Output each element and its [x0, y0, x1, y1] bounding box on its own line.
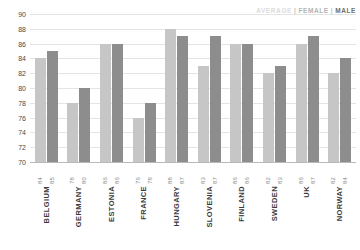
bar-group	[128, 14, 161, 162]
y-axis-tick-label: 72	[0, 144, 26, 151]
category-label: NORWAY	[336, 186, 344, 221]
category-label-cell: SWEDEN	[258, 186, 291, 248]
bar-group	[63, 14, 96, 162]
value-label-group: 8686	[95, 164, 128, 184]
bar-male	[112, 44, 123, 162]
value-label: 86	[242, 164, 253, 184]
category-label-cell: ESTONIA	[95, 186, 128, 248]
y-axis-tick-label: 90	[0, 11, 26, 18]
value-label: 83	[198, 164, 209, 184]
bar-female	[296, 44, 307, 162]
category-label-cell: BELGIUM	[30, 186, 63, 248]
category-label-cell: FINLAND	[226, 186, 259, 248]
gridline	[30, 162, 356, 163]
bar-group	[323, 14, 356, 162]
bar-male	[210, 36, 221, 162]
value-label-group: 8485	[30, 164, 63, 184]
bar-female	[328, 73, 339, 162]
category-label: BELGIUM	[43, 186, 51, 223]
bar-male	[308, 36, 319, 162]
value-label-group: 8387	[193, 164, 226, 184]
value-label: 85	[47, 164, 58, 184]
value-label-group: 7880	[63, 164, 96, 184]
bar-group	[95, 14, 128, 162]
value-label-group: 8284	[323, 164, 356, 184]
bar-male	[177, 36, 188, 162]
bar-female	[100, 44, 111, 162]
value-label: 83	[275, 164, 286, 184]
category-label: UK	[303, 186, 311, 198]
category-label: GERMANY	[75, 186, 83, 227]
value-label: 82	[263, 164, 274, 184]
bar-female	[198, 66, 209, 162]
value-label: 88	[165, 164, 176, 184]
bar-female	[263, 73, 274, 162]
value-label: 84	[35, 164, 46, 184]
bar-male	[340, 58, 351, 162]
category-label-cell: FRANCE	[128, 186, 161, 248]
value-labels-row: 8485788086867678888783878686828386878284	[30, 164, 356, 184]
value-label: 86	[296, 164, 307, 184]
category-label: ESTONIA	[108, 186, 116, 222]
category-labels-row: BELGIUMGERMANYESTONIAFRANCEHUNGARYSLOVEN…	[30, 186, 356, 248]
y-axis-tick-label: 88	[0, 25, 26, 32]
category-label: HUNGARY	[173, 186, 181, 226]
category-label: SWEDEN	[271, 186, 279, 221]
bar-male	[79, 88, 90, 162]
category-label-cell: GERMANY	[63, 186, 96, 248]
bar-group	[30, 14, 63, 162]
bar-male	[242, 44, 253, 162]
category-label-cell: SLOVENIA	[193, 186, 226, 248]
value-label: 86	[100, 164, 111, 184]
category-label: FRANCE	[140, 186, 148, 220]
value-label-group: 8687	[291, 164, 324, 184]
plot-area	[30, 14, 356, 162]
value-label: 86	[230, 164, 241, 184]
category-label-cell: HUNGARY	[160, 186, 193, 248]
bar-group	[193, 14, 226, 162]
bar-male	[145, 103, 156, 162]
bar-chart: AVERAGE | FEMALE | MALE 7072747678808284…	[0, 0, 360, 250]
y-axis-tick-label: 82	[0, 70, 26, 77]
bar-group	[291, 14, 324, 162]
bar-male	[275, 66, 286, 162]
value-label-group: 7678	[128, 164, 161, 184]
bar-female	[67, 103, 78, 162]
bar-group	[160, 14, 193, 162]
bar-female	[165, 29, 176, 162]
value-label: 78	[145, 164, 156, 184]
value-label: 84	[340, 164, 351, 184]
bar-group	[258, 14, 291, 162]
value-label: 87	[177, 164, 188, 184]
bar-female	[35, 58, 46, 162]
value-label-group: 8887	[160, 164, 193, 184]
bar-group	[226, 14, 259, 162]
value-label: 76	[133, 164, 144, 184]
y-axis-tick-label: 76	[0, 114, 26, 121]
y-axis-tick-label: 74	[0, 129, 26, 136]
y-axis-tick-label: 86	[0, 40, 26, 47]
y-axis-tick-label: 78	[0, 99, 26, 106]
value-label: 87	[210, 164, 221, 184]
value-label: 82	[328, 164, 339, 184]
value-label-group: 8283	[258, 164, 291, 184]
bar-female	[133, 118, 144, 162]
y-axis-tick-label: 84	[0, 55, 26, 62]
value-label: 87	[308, 164, 319, 184]
bar-groups	[30, 14, 356, 162]
category-label-cell: NORWAY	[323, 186, 356, 248]
category-label: FINLAND	[238, 186, 246, 222]
value-label-group: 8686	[226, 164, 259, 184]
bar-female	[230, 44, 241, 162]
bar-male	[47, 51, 58, 162]
category-label: SLOVENIA	[206, 186, 214, 228]
y-axis-tick-label: 80	[0, 85, 26, 92]
value-label: 86	[112, 164, 123, 184]
value-label: 78	[67, 164, 78, 184]
value-label: 80	[79, 164, 90, 184]
category-label-cell: UK	[291, 186, 324, 248]
y-axis-tick-label: 70	[0, 159, 26, 166]
